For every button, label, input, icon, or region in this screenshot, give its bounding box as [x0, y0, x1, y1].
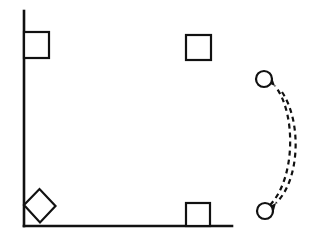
bottom-right-square [186, 203, 210, 226]
diagram-svg [0, 0, 319, 244]
top-right-square [186, 35, 211, 60]
bottom-circle [257, 203, 273, 219]
top-circle [256, 71, 272, 87]
top-left-square [24, 32, 49, 58]
diagram-canvas [0, 0, 319, 244]
